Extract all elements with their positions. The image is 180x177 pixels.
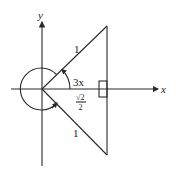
- adjacent-numerator: √2: [76, 93, 84, 102]
- x-axis-label: x: [160, 83, 166, 95]
- unit-circle-triangle-diagram: x y 1 1 3x √2 2: [0, 0, 180, 177]
- y-axis-label: y: [37, 9, 43, 21]
- lower-hypotenuse: [42, 89, 107, 155]
- upper-side-label: 1: [74, 43, 80, 55]
- angle-label-3x: 3x: [73, 76, 85, 88]
- lower-side-label: 1: [73, 127, 79, 139]
- angle-3x-arc: [62, 70, 70, 90]
- arc-arrow-lower-icon: [52, 103, 57, 108]
- adjacent-denominator: 2: [79, 103, 83, 112]
